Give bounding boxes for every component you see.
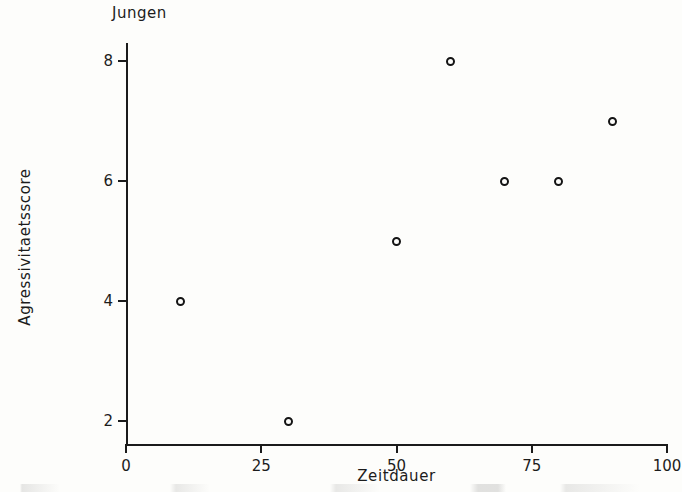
y-tick-label: 4 xyxy=(103,292,113,310)
x-tick-mark xyxy=(260,444,262,453)
data-point xyxy=(392,237,401,246)
y-tick-label: 6 xyxy=(103,172,113,190)
x-tick-label: 75 xyxy=(522,457,541,475)
x-tick-mark xyxy=(396,444,398,453)
x-tick-mark xyxy=(666,444,668,453)
data-point xyxy=(608,117,617,126)
y-tick-mark xyxy=(118,180,127,182)
y-tick-mark xyxy=(118,300,127,302)
scan-artifact xyxy=(0,484,682,492)
x-tick-label: 50 xyxy=(387,457,406,475)
data-point xyxy=(554,177,563,186)
y-axis-label-container: Agressivitaetsscore xyxy=(0,0,30,492)
data-point xyxy=(500,177,509,186)
x-tick-label: 100 xyxy=(653,457,682,475)
y-tick-mark xyxy=(118,420,127,422)
y-tick-label: 2 xyxy=(103,412,113,430)
y-axis-label: Agressivitaetsscore xyxy=(16,117,34,377)
x-tick-label: 0 xyxy=(121,457,131,475)
x-tick-mark xyxy=(125,444,127,453)
plot-title: Jungen xyxy=(112,4,167,22)
plot-area: 2468 0255075100 xyxy=(126,43,667,445)
scatter-plot-figure: Jungen Agressivitaetsscore Zeitdauer 246… xyxy=(0,0,682,492)
data-point xyxy=(446,57,455,66)
x-tick-label: 25 xyxy=(252,457,271,475)
y-tick-mark xyxy=(118,60,127,62)
y-axis-line xyxy=(126,43,128,446)
data-point xyxy=(176,297,185,306)
x-tick-mark xyxy=(531,444,533,453)
data-point xyxy=(284,417,293,426)
y-tick-label: 8 xyxy=(103,52,113,70)
